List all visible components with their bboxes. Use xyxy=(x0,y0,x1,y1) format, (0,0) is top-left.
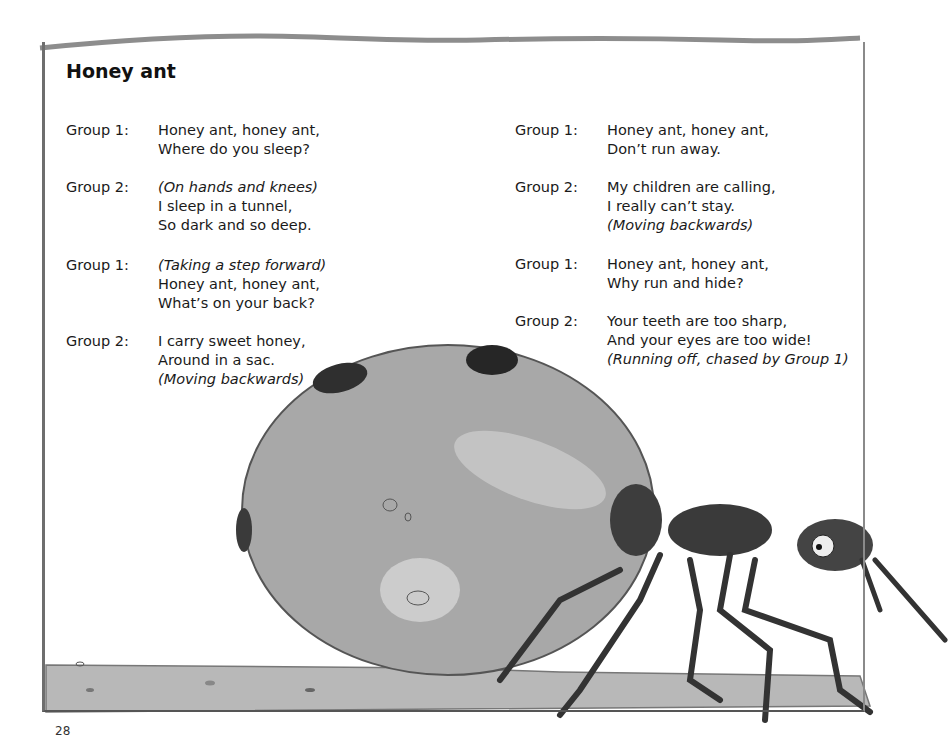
verse-right-1: Group 1: Honey ant, honey ant, Don’t run… xyxy=(515,121,769,159)
verse-left-2: Group 2: (On hands and knees) I sleep in… xyxy=(66,178,318,235)
stage-direction: (Taking a step forward) xyxy=(158,256,326,275)
verse-line: Your teeth are too sharp, xyxy=(607,312,849,331)
verse-right-4: Group 2: Your teeth are too sharp, And y… xyxy=(515,312,849,369)
speaker-label: Group 1: xyxy=(515,255,607,293)
verse-line: Around in a sac. xyxy=(158,351,306,370)
stage-direction: (On hands and knees) xyxy=(158,178,318,197)
verse-line: What’s on your back? xyxy=(158,294,326,313)
verse-right-3: Group 1: Honey ant, honey ant, Why run a… xyxy=(515,255,769,293)
verse-left-4: Group 2: I carry sweet honey, Around in … xyxy=(66,332,306,389)
verse-line: And your eyes are too wide! xyxy=(607,331,849,350)
speaker-label: Group 1: xyxy=(66,256,158,313)
verse-line: Don’t run away. xyxy=(607,140,769,159)
stage-direction: (Moving backwards) xyxy=(607,216,776,235)
verse-line: Honey ant, honey ant, xyxy=(158,275,326,294)
verse-line: Why run and hide? xyxy=(607,274,769,293)
speaker-label: Group 2: xyxy=(66,178,158,235)
verse-line: I carry sweet honey, xyxy=(158,332,306,351)
verse-line: Where do you sleep? xyxy=(158,140,320,159)
verse-line: My children are calling, xyxy=(607,178,776,197)
verse-line: So dark and so deep. xyxy=(158,216,318,235)
verse-line: I really can’t stay. xyxy=(607,197,776,216)
speaker-label: Group 2: xyxy=(515,312,607,369)
verse-left-1: Group 1: Honey ant, honey ant, Where do … xyxy=(66,121,320,159)
stage-direction: (Moving backwards) xyxy=(158,370,306,389)
verse-right-2: Group 2: My children are calling, I real… xyxy=(515,178,776,235)
speaker-label: Group 2: xyxy=(515,178,607,235)
page-number: 28 xyxy=(55,724,70,738)
verse-line: Honey ant, honey ant, xyxy=(607,255,769,274)
speaker-label: Group 1: xyxy=(515,121,607,159)
verse-left-3: Group 1: (Taking a step forward) Honey a… xyxy=(66,256,326,313)
ant-antenna xyxy=(862,560,945,640)
speaker-label: Group 1: xyxy=(66,121,158,159)
page-title: Honey ant xyxy=(66,60,176,82)
verse-line: Honey ant, honey ant, xyxy=(607,121,769,140)
verse-line: Honey ant, honey ant, xyxy=(158,121,320,140)
speaker-label: Group 2: xyxy=(66,332,158,389)
verse-line: I sleep in a tunnel, xyxy=(158,197,318,216)
stage-direction: (Running off, chased by Group 1) xyxy=(607,350,849,369)
